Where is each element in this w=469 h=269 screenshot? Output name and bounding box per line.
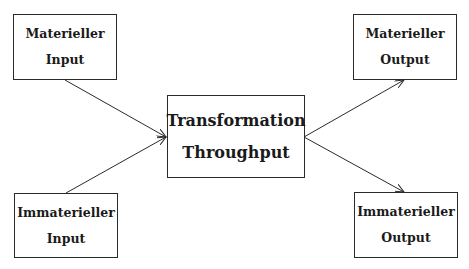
node-label-line1: Immaterieller — [357, 199, 454, 225]
node-label-line2: Output — [380, 47, 429, 73]
node-label-line2: Input — [47, 226, 86, 252]
node-label-line2: Input — [46, 47, 85, 73]
node-label-line2: Output — [381, 225, 430, 251]
node-label-line1: Materieller — [26, 21, 105, 47]
node-material-output: Materieller Output — [353, 14, 457, 80]
edge-transformation-to-immaterial-output — [304, 137, 404, 192]
node-label-line1: Immaterieller — [17, 200, 114, 226]
edge-material-input-to-transformation — [65, 80, 166, 137]
edge-transformation-to-material-output — [304, 80, 404, 137]
node-material-input: Materieller Input — [13, 14, 117, 80]
node-immaterial-output: Immaterieller Output — [354, 192, 458, 258]
node-immaterial-input: Immaterieller Input — [14, 193, 118, 258]
node-label-line1: Transformation — [166, 105, 305, 137]
node-transformation: Transformation Throughput — [167, 95, 305, 178]
node-label-line1: Materieller — [366, 21, 445, 47]
node-label-line2: Throughput — [182, 137, 289, 169]
edge-immaterial-input-to-transformation — [66, 137, 166, 193]
